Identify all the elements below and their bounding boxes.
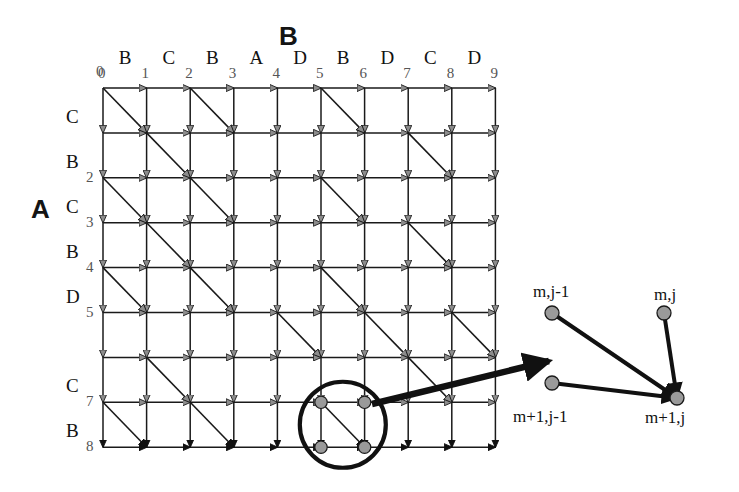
row-letter-7: C xyxy=(66,376,79,395)
lattice-graph xyxy=(0,0,739,492)
column-index-9: 9 xyxy=(490,66,498,81)
edge-diagonal xyxy=(408,223,452,268)
edge-diagonal xyxy=(190,88,234,133)
edge-diagonal xyxy=(321,402,365,447)
inset-label-m-plus-1-j: m+1,j xyxy=(645,409,685,426)
inset-label-m-plus-1-j-minus-1: m+1,j-1 xyxy=(513,408,567,425)
edge-diagonal xyxy=(321,88,365,133)
row-index-4: 4 xyxy=(86,260,94,275)
column-letter-5: D xyxy=(293,48,307,67)
row-letter-8: B xyxy=(66,421,79,440)
inset-label-m-j-minus-1: m,j-1 xyxy=(533,283,569,300)
edge-diagonal xyxy=(103,402,147,447)
column-index-6: 6 xyxy=(360,66,368,81)
edge-diagonal xyxy=(103,178,147,223)
column-index-3: 3 xyxy=(229,66,237,81)
column-index-5: 5 xyxy=(316,66,324,81)
edge-diagonal xyxy=(321,178,365,223)
edge-diagonal xyxy=(190,268,234,313)
axis-title-vertical: A xyxy=(31,196,50,222)
column-letter-9: D xyxy=(468,48,482,67)
edge-diagonal xyxy=(452,313,496,358)
column-letter-4: A xyxy=(250,48,264,67)
lattice-node-highlighted xyxy=(358,396,370,408)
edge-diagonal xyxy=(147,133,191,178)
inset-node xyxy=(670,391,684,405)
row-letter-2: B xyxy=(66,152,79,171)
edge-diagonal xyxy=(190,402,234,447)
edge-diagonal xyxy=(147,357,191,402)
column-letter-7: D xyxy=(380,48,394,67)
column-letter-6: B xyxy=(337,48,350,67)
column-index-7: 7 xyxy=(403,66,411,81)
row-letter-5: D xyxy=(66,287,80,306)
inset-node xyxy=(545,306,559,320)
edge-diagonal xyxy=(277,313,321,358)
row-index-0: 0 xyxy=(96,64,104,79)
row-index-5: 5 xyxy=(86,305,94,320)
edge-diagonal xyxy=(365,313,409,358)
lattice-node-highlighted xyxy=(315,396,327,408)
inset-node xyxy=(657,306,671,320)
column-letter-2: C xyxy=(162,48,175,67)
row-letter-4: B xyxy=(66,242,79,261)
row-index-7: 7 xyxy=(86,394,94,409)
column-letter-1: B xyxy=(119,48,132,67)
lattice-node-highlighted xyxy=(315,441,327,453)
edge-diagonal xyxy=(321,268,365,313)
column-index-8: 8 xyxy=(447,66,455,81)
column-index-4: 4 xyxy=(272,66,280,81)
column-letter-3: B xyxy=(206,48,219,67)
row-index-3: 3 xyxy=(86,215,94,230)
edge-diagonal xyxy=(190,178,234,223)
axis-title-horizontal: B xyxy=(279,23,298,49)
row-index-2: 2 xyxy=(86,170,94,185)
lattice-node-highlighted xyxy=(358,441,370,453)
callout-arrow xyxy=(372,361,549,404)
figure-canvas: B A BCBADBDCD 0123456789 CBCBDCB 2345780… xyxy=(0,0,739,492)
row-letter-3: C xyxy=(66,197,79,216)
column-letter-8: C xyxy=(424,48,437,67)
edge-diagonal xyxy=(103,88,147,133)
edge-diagonal xyxy=(147,223,191,268)
row-letter-1: C xyxy=(66,107,79,126)
inset-edge xyxy=(664,313,677,398)
row-index-8: 8 xyxy=(86,439,94,454)
inset-label-m-j: m,j xyxy=(654,286,676,303)
edge-diagonal xyxy=(103,268,147,313)
edge-diagonal xyxy=(408,133,452,178)
inset-node xyxy=(545,376,559,390)
column-index-2: 2 xyxy=(185,66,193,81)
column-index-1: 1 xyxy=(142,66,150,81)
